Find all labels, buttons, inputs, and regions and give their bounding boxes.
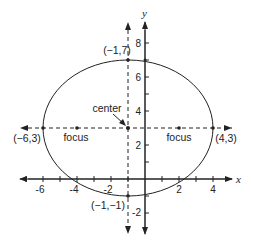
x-tick-label: 2 bbox=[176, 184, 182, 195]
x-tick-label: 4 bbox=[210, 184, 216, 195]
focus-right-point bbox=[177, 126, 181, 130]
focus-left-label: focus bbox=[63, 131, 88, 143]
y-axis-label: y bbox=[141, 7, 147, 19]
focus-right-label: focus bbox=[166, 131, 191, 143]
focus-left-point bbox=[75, 126, 79, 130]
y-tick-label: 2 bbox=[135, 140, 141, 151]
bottom-vertex-point bbox=[126, 194, 130, 198]
y-tick-label: 6 bbox=[135, 72, 141, 83]
left-vertex-point bbox=[41, 126, 45, 130]
y-tick-label: 4 bbox=[135, 106, 141, 117]
right-vertex-label: (4,3) bbox=[215, 132, 237, 144]
top-vertex-label: (−1,7) bbox=[103, 44, 131, 56]
x-axis: -6 -4 -2 2 4 x bbox=[20, 173, 241, 195]
ellipse-figure: -6 -4 -2 2 4 x 8 6 4 2 -2 y bbox=[0, 0, 253, 248]
left-vertex-label: (−6,3) bbox=[13, 132, 41, 144]
center-label: center bbox=[92, 102, 122, 114]
x-axis-label: x bbox=[235, 173, 241, 185]
y-tick-label: -2 bbox=[132, 207, 141, 218]
center-pointer-arrow bbox=[113, 114, 126, 126]
top-vertex-point bbox=[126, 58, 130, 62]
right-vertex-point bbox=[211, 126, 215, 130]
x-tick-label: -4 bbox=[70, 184, 79, 195]
y-tick-label: 8 bbox=[135, 38, 141, 49]
center-point bbox=[126, 126, 130, 130]
bottom-vertex-label: (−1,−1) bbox=[91, 199, 125, 211]
x-tick-label: -6 bbox=[36, 184, 45, 195]
y-axis: 8 6 4 2 -2 y bbox=[132, 7, 149, 234]
ellipse-diagram-svg: -6 -4 -2 2 4 x 8 6 4 2 -2 y bbox=[0, 0, 253, 248]
